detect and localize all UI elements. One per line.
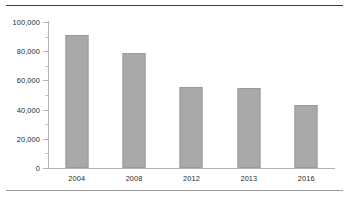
- bar-slot: 2008: [105, 22, 162, 168]
- x-axis-line: [48, 168, 335, 169]
- bar-slot: 2013: [220, 22, 277, 168]
- y-axis-tick-label: 100,000: [13, 18, 40, 27]
- bar: [65, 35, 88, 168]
- bar-chart-figure: 020,00040,00060,00080,000100,000 2004200…: [0, 0, 349, 197]
- bar-slot: 2016: [278, 22, 335, 168]
- bar-slot: 2004: [48, 22, 105, 168]
- y-axis-tick-label: 20,000: [17, 134, 40, 143]
- y-axis-tick-label: 0: [36, 164, 40, 173]
- top-divider-rule: [6, 5, 343, 6]
- bar-series: 20042008201220132016: [48, 22, 335, 168]
- x-axis-tick-label: 2004: [68, 174, 85, 183]
- plot-area: 020,00040,00060,00080,000100,000 2004200…: [48, 22, 335, 168]
- y-axis-tick-label: 40,000: [17, 105, 40, 114]
- x-axis-tick-label: 2016: [298, 174, 315, 183]
- x-axis-tick-label: 2008: [126, 174, 143, 183]
- bar: [180, 87, 203, 168]
- x-axis-tick-label: 2013: [240, 174, 257, 183]
- x-axis-tick-label: 2012: [183, 174, 200, 183]
- bar: [295, 105, 318, 169]
- bar: [237, 88, 260, 168]
- bar-slot: 2012: [163, 22, 220, 168]
- y-axis-tick-label: 60,000: [17, 76, 40, 85]
- y-axis-tick-label: 80,000: [17, 47, 40, 56]
- bar: [123, 53, 146, 168]
- y-tick-major: [43, 168, 48, 169]
- bottom-divider-rule: [6, 190, 343, 191]
